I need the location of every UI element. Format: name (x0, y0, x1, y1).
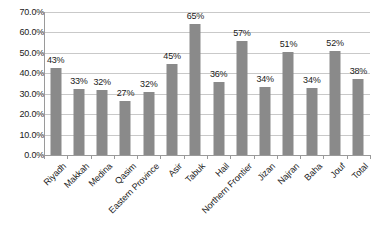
y-axis-line (44, 12, 45, 156)
bar-slot: 36% (207, 12, 230, 155)
bar-slot: 27% (114, 12, 137, 155)
x-axis-category-label: Najran (275, 161, 300, 186)
x-axis-tick-mark (207, 155, 208, 159)
bar-slot: 32% (91, 12, 114, 155)
x-axis-category-label-wrap: Jizan (256, 161, 278, 183)
x-axis-category-label: Asir (167, 161, 185, 179)
x-axis-category-label: Jouf (328, 161, 347, 180)
x-axis-tick-mark (44, 155, 45, 159)
x-axis-category-label-wrap: Total (350, 161, 370, 181)
bar[interactable] (260, 87, 271, 155)
bar-value-label: 52% (326, 39, 343, 48)
y-axis: 0.0%10.0%20.0%30.0%40.0%50.0%60.0%70.0% (0, 0, 44, 236)
x-axis-category-label-wrap: Najran (275, 161, 300, 186)
x-axis-category-label-wrap: Hail (213, 161, 231, 179)
bar-value-label: 36% (210, 70, 227, 79)
bar[interactable] (143, 92, 154, 155)
bar-value-label: 33% (70, 77, 87, 86)
bar-chart: 0.0%10.0%20.0%30.0%40.0%50.0%60.0%70.0% … (0, 0, 377, 236)
x-axis-category-label-wrap: Baha (302, 161, 324, 183)
x-axis-tick-mark (347, 155, 348, 159)
x-axis-category-label: Makkah (62, 161, 91, 190)
bar[interactable] (50, 68, 61, 155)
y-axis-tick-label: 60.0% (2, 28, 44, 37)
bar-value-label: 32% (140, 80, 157, 89)
bar-value-label: 51% (280, 40, 297, 49)
y-axis-tick-label: 30.0% (2, 90, 44, 99)
x-axis-tick-mark (323, 155, 324, 159)
x-axis-tick-mark (230, 155, 231, 159)
bar-value-label: 27% (117, 89, 134, 98)
bar[interactable] (120, 101, 131, 155)
bar-value-label: 34% (256, 75, 273, 84)
y-axis-tick-label: 0.0% (2, 151, 44, 160)
bar-slot: 51% (277, 12, 300, 155)
bar[interactable] (97, 90, 108, 155)
bar-slot: 33% (67, 12, 90, 155)
x-axis-tick-mark (300, 155, 301, 159)
x-axis-tick-mark (91, 155, 92, 159)
bar-value-label: 32% (93, 78, 110, 87)
bar-slot: 65% (184, 12, 207, 155)
bar-value-label: 38% (350, 67, 367, 76)
x-axis-category-label: Baha (302, 161, 324, 183)
bar-slot: 32% (137, 12, 160, 155)
x-axis-tick-mark (277, 155, 278, 159)
x-axis-category-label-wrap: Jouf (328, 161, 347, 180)
plot-area: 43%33%32%27%32%45%65%36%57%34%51%34%52%3… (44, 12, 370, 155)
bar[interactable] (190, 24, 201, 155)
bar[interactable] (73, 89, 84, 155)
bar-value-label: 43% (47, 56, 64, 65)
x-axis-tick-mark (160, 155, 161, 159)
bar[interactable] (306, 88, 317, 155)
bar-slot: 34% (254, 12, 277, 155)
bar[interactable] (283, 52, 294, 155)
x-axis-tick-mark (114, 155, 115, 159)
bar-slot: 34% (300, 12, 323, 155)
bar-slot: 38% (347, 12, 370, 155)
x-axis-category-label-wrap: Makkah (62, 161, 91, 190)
x-axis-category-label: Medina (87, 161, 115, 189)
y-axis-tick-label: 70.0% (2, 8, 44, 17)
bar-slot: 52% (323, 12, 346, 155)
bar-slot: 43% (44, 12, 67, 155)
x-axis-category-label-wrap: Medina (87, 161, 115, 189)
x-axis-category-label: Jizan (256, 161, 278, 183)
x-axis-category-label-wrap: Tabuk (184, 161, 208, 185)
x-axis-category-label: Tabuk (184, 161, 208, 185)
y-axis-tick-label: 40.0% (2, 69, 44, 78)
bar-value-label: 34% (303, 76, 320, 85)
x-axis-tick-mark (370, 155, 371, 159)
y-axis-tick-label: 10.0% (2, 131, 44, 140)
bar-value-label: 57% (233, 29, 250, 38)
bar-value-label: 45% (163, 52, 180, 61)
x-axis-tick-mark (254, 155, 255, 159)
bottom-cropped-text (0, 230, 377, 236)
bar[interactable] (330, 51, 341, 155)
x-axis-category-label-wrap: Asir (167, 161, 185, 179)
x-axis-category-label: Hail (213, 161, 231, 179)
x-axis-tick-mark (137, 155, 138, 159)
bar-slot: 45% (160, 12, 183, 155)
bar[interactable] (167, 64, 178, 155)
bar[interactable] (213, 82, 224, 155)
bar[interactable] (236, 41, 247, 155)
bar-slot: 57% (230, 12, 253, 155)
bar[interactable] (353, 79, 364, 155)
y-axis-tick-label: 20.0% (2, 110, 44, 119)
bar-value-label: 65% (187, 12, 204, 21)
x-axis-category-label: Total (350, 161, 370, 181)
y-axis-tick-label: 50.0% (2, 49, 44, 58)
x-axis-tick-mark (67, 155, 68, 159)
x-axis-tick-mark (184, 155, 185, 159)
